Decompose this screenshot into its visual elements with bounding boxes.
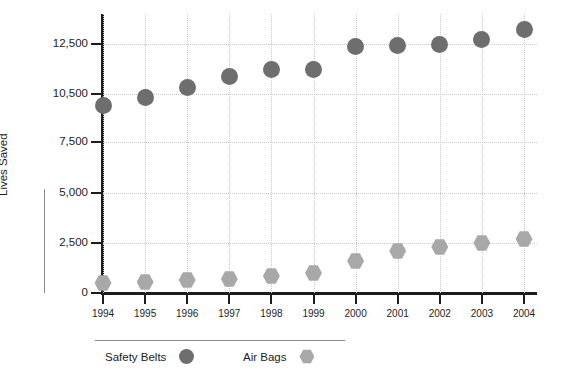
data-point-air-bags-2001[interactable] bbox=[389, 243, 406, 260]
y-axis-tick bbox=[91, 141, 103, 143]
x-axis-tick bbox=[270, 295, 272, 304]
gridline-vertical bbox=[314, 14, 315, 293]
cropped-title-remnant bbox=[72, 0, 202, 9]
legend-rule bbox=[95, 340, 345, 341]
data-point-safety-belts-2000[interactable] bbox=[347, 38, 364, 55]
gridline-horizontal bbox=[103, 94, 537, 95]
gridline-vertical bbox=[356, 14, 357, 293]
data-point-air-bags-1997[interactable] bbox=[221, 271, 238, 288]
y-axis-tick bbox=[91, 292, 103, 294]
data-point-safety-belts-1994[interactable] bbox=[95, 97, 112, 114]
gridline-vertical bbox=[187, 14, 188, 293]
data-point-air-bags-2002[interactable] bbox=[431, 239, 448, 256]
x-axis-label-2001: 2001 bbox=[378, 308, 418, 319]
x-axis-label-2002: 2002 bbox=[420, 308, 460, 319]
x-axis-tick bbox=[523, 295, 525, 304]
x-axis-label-1994: 1994 bbox=[83, 308, 123, 319]
y-axis-label: 7,500 bbox=[0, 135, 88, 147]
y-axis-tick bbox=[91, 43, 103, 45]
legend-swatch-circle-icon bbox=[179, 349, 194, 364]
x-axis-tick bbox=[355, 295, 357, 304]
gridline-horizontal bbox=[103, 193, 537, 194]
gridline-horizontal bbox=[103, 44, 537, 45]
y-axis-label: 12,500 bbox=[0, 37, 88, 49]
chart-container: Lives Saved 02,5005,0007,50010,50012,500… bbox=[0, 0, 563, 387]
y-axis-label: 2,500 bbox=[0, 236, 88, 248]
x-axis-tick bbox=[439, 295, 441, 304]
gridline-horizontal bbox=[103, 142, 537, 143]
data-point-air-bags-1995[interactable] bbox=[137, 274, 154, 291]
gridline-vertical bbox=[482, 14, 483, 293]
gridline-horizontal bbox=[103, 243, 537, 244]
legend-label: Safety Belts bbox=[105, 351, 166, 363]
y-axis-tick bbox=[91, 93, 103, 95]
x-axis-tick bbox=[102, 295, 104, 304]
x-axis-label-2000: 2000 bbox=[336, 308, 376, 319]
data-point-safety-belts-1997[interactable] bbox=[221, 68, 238, 85]
gridline-vertical bbox=[103, 14, 104, 293]
x-axis-tick bbox=[186, 295, 188, 304]
data-point-safety-belts-1999[interactable] bbox=[305, 61, 322, 78]
y-axis-label: 5,000 bbox=[0, 186, 88, 198]
legend-item-air-bags[interactable]: Air Bags bbox=[243, 349, 314, 364]
data-point-safety-belts-1996[interactable] bbox=[179, 79, 196, 96]
legend-row: Safety BeltsAir Bags bbox=[95, 349, 355, 373]
plot-area bbox=[103, 14, 537, 293]
chart-legend: Safety BeltsAir Bags bbox=[95, 340, 355, 380]
data-point-air-bags-2003[interactable] bbox=[473, 235, 490, 252]
x-axis-tick bbox=[397, 295, 399, 304]
data-point-safety-belts-2002[interactable] bbox=[431, 36, 448, 53]
y-axis-label: 0 bbox=[0, 286, 88, 298]
x-axis-tick bbox=[144, 295, 146, 304]
x-axis-tick bbox=[228, 295, 230, 304]
x-axis-label-1995: 1995 bbox=[125, 308, 165, 319]
x-axis-label-1999: 1999 bbox=[294, 308, 334, 319]
data-point-air-bags-1998[interactable] bbox=[263, 268, 280, 285]
data-point-safety-belts-1998[interactable] bbox=[263, 61, 280, 78]
x-axis-tick bbox=[313, 295, 315, 304]
legend-label: Air Bags bbox=[243, 351, 286, 363]
data-point-air-bags-1999[interactable] bbox=[305, 265, 322, 282]
y-axis-tick bbox=[91, 242, 103, 244]
data-point-air-bags-1994[interactable] bbox=[95, 275, 112, 292]
gridline-vertical bbox=[145, 14, 146, 293]
data-point-safety-belts-2003[interactable] bbox=[473, 31, 490, 48]
gridline-vertical bbox=[229, 14, 230, 293]
data-point-safety-belts-2004[interactable] bbox=[516, 21, 533, 38]
gridline-vertical bbox=[271, 14, 272, 293]
y-axis-tick bbox=[91, 192, 103, 194]
gridline-vertical bbox=[524, 14, 525, 293]
data-point-air-bags-1996[interactable] bbox=[179, 272, 196, 289]
x-axis-label-1997: 1997 bbox=[209, 308, 249, 319]
y-axis-label: 10,500 bbox=[0, 87, 88, 99]
legend-swatch-hexagon-icon bbox=[299, 349, 314, 364]
data-point-safety-belts-2001[interactable] bbox=[389, 37, 406, 54]
data-point-air-bags-2000[interactable] bbox=[347, 253, 364, 270]
legend-item-safety-belts[interactable]: Safety Belts bbox=[105, 349, 194, 364]
data-point-safety-belts-1995[interactable] bbox=[137, 89, 154, 106]
x-axis-label-2004: 2004 bbox=[504, 308, 544, 319]
x-axis-label-1996: 1996 bbox=[167, 308, 207, 319]
data-point-air-bags-2004[interactable] bbox=[516, 231, 533, 248]
x-axis-label-2003: 2003 bbox=[462, 308, 502, 319]
x-axis-tick bbox=[481, 295, 483, 304]
x-axis-label-1998: 1998 bbox=[251, 308, 291, 319]
